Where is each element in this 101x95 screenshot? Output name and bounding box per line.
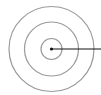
concentric-circles-diagram	[0, 0, 101, 95]
center-dot	[50, 47, 53, 50]
